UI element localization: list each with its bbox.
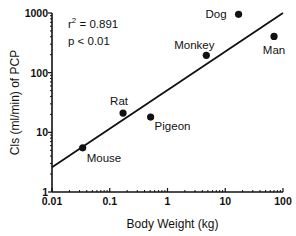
x-tick-label: 10 (219, 195, 231, 207)
point-label: Mouse (87, 152, 122, 164)
r-squared-annotation: r2 = 0.891 (68, 16, 118, 30)
y-axis-label: Cls (ml/min) of PCP (8, 50, 22, 155)
point-label: Pigeon (155, 120, 191, 132)
y-tick-label: 10 (36, 126, 48, 138)
data-point (79, 144, 86, 151)
x-tick-label: 0.1 (102, 195, 117, 207)
point-label: Monkey (174, 39, 215, 51)
data-point (119, 110, 126, 117)
x-tick-label: 100 (274, 195, 292, 207)
data-point (203, 52, 210, 59)
point-label: Rat (110, 95, 129, 107)
data-point (147, 114, 154, 121)
x-axis-label: Body Weight (kg) (127, 217, 219, 231)
x-tick-label: 1 (165, 195, 171, 207)
y-tick-label: 1 (42, 186, 48, 198)
y-tick-label: 1000 (25, 7, 49, 19)
point-label: Dog (205, 8, 226, 20)
y-tick-label: 100 (30, 67, 48, 79)
data-point (235, 11, 242, 18)
point-label: Man (263, 44, 285, 56)
data-point (270, 33, 277, 40)
p-value-annotation: p < 0.01 (68, 35, 110, 47)
scatter-chart: 0.010.11101001101001000Body Weight (kg)C… (0, 0, 296, 236)
